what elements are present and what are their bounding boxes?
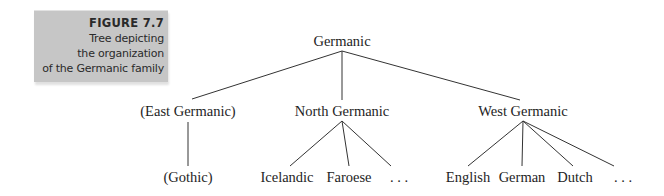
node-faroese: Faroese	[326, 169, 371, 185]
edge-west-others	[523, 121, 614, 166]
edge-west-german	[522, 121, 523, 166]
edge-west-dutch	[523, 121, 573, 166]
node-east-germanic: (East Germanic)	[140, 103, 235, 119]
edge-root-east	[192, 51, 342, 99]
node-german: German	[499, 169, 546, 185]
node-english: English	[446, 169, 490, 185]
node-germanic: Germanic	[313, 33, 370, 49]
edge-north-faroese	[342, 121, 349, 166]
node-gothic: (Gothic)	[163, 169, 212, 185]
node-west-others: . . .	[614, 169, 632, 185]
node-icelandic: Icelandic	[260, 169, 313, 185]
tree-edges	[0, 0, 664, 196]
edge-north-others	[342, 121, 391, 166]
node-north-others: . . .	[390, 169, 408, 185]
edge-north-icelandic	[290, 121, 342, 166]
node-west-germanic: West Germanic	[478, 103, 567, 119]
node-north-germanic: North Germanic	[295, 103, 390, 119]
edge-root-west	[342, 51, 520, 100]
node-dutch: Dutch	[557, 169, 592, 185]
edge-west-english	[468, 121, 523, 166]
